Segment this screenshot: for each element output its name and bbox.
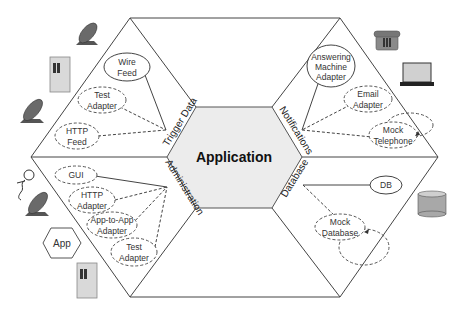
svg-text:Adapter: Adapter [353, 100, 383, 110]
svg-text:Email: Email [357, 89, 378, 99]
svg-text:Feed: Feed [67, 137, 87, 147]
svg-text:Database: Database [322, 228, 359, 238]
svg-text:Mock: Mock [383, 125, 404, 135]
svg-text:Test: Test [94, 90, 110, 100]
svg-text:App-to-App: App-to-App [91, 215, 134, 225]
adapter-http-admin[interactable]: HTTP Adapter [69, 187, 115, 213]
connector-gui [95, 176, 167, 187]
svg-text:DB: DB [380, 180, 392, 190]
adapter-wire-feed[interactable]: Wire Feed [104, 53, 150, 81]
svg-text:Telephone: Telephone [373, 136, 413, 146]
database-icon [418, 191, 446, 217]
adapter-app-to-app[interactable]: App-to-App Adapter [87, 212, 137, 238]
connector-test-adapter-trigger [120, 107, 166, 130]
adapter-email[interactable]: Email Adapter [344, 86, 392, 112]
connector-mock-telephone [302, 130, 372, 137]
adapter-http-feed[interactable]: HTTP Feed [55, 123, 99, 149]
svg-text:Answering: Answering [311, 52, 351, 62]
svg-text:Machine: Machine [315, 62, 347, 72]
satellite-dish-icon [20, 96, 46, 124]
app-actor[interactable]: App [43, 228, 81, 258]
adapter-test-admin[interactable]: Test Adapter [111, 238, 157, 266]
svg-text:HTTP: HTTP [66, 126, 89, 136]
adapter-mock-telephone[interactable]: Mock Telephone [369, 122, 417, 148]
adapter-gui[interactable]: GUI [55, 166, 97, 184]
svg-text:Adapter: Adapter [77, 201, 107, 211]
application-label: Application [196, 149, 272, 165]
server-icon [50, 57, 70, 92]
hexagonal-architecture-diagram: Application Trigger Data Notifications D… [0, 0, 464, 312]
app-actor-label: App [53, 238, 71, 249]
svg-text:Adapter: Adapter [87, 101, 117, 111]
svg-text:Adapter: Adapter [97, 226, 127, 236]
svg-text:Adapter: Adapter [119, 253, 149, 263]
satellite-dish-icon [76, 20, 101, 46]
connector-mock-database [303, 185, 335, 216]
adapter-db[interactable]: DB [370, 176, 402, 194]
adapter-answering-machine[interactable]: Answering Machine Adapter [307, 45, 355, 87]
connector-test-adapter-admin [155, 187, 167, 247]
svg-text:Wire: Wire [118, 57, 136, 67]
adapter-test-trigger[interactable]: Test Adapter [78, 87, 126, 113]
svg-text:GUI: GUI [68, 170, 83, 180]
connector-http-adapter [115, 187, 167, 200]
connector-http-feed [98, 130, 166, 136]
user-icon [17, 170, 34, 200]
adapter-mock-database[interactable]: Mock Database [315, 214, 365, 240]
server-icon [77, 263, 97, 298]
telephone-icon [374, 31, 400, 50]
connector-app-to-app [132, 187, 167, 224]
svg-text:Feed: Feed [117, 68, 137, 78]
connector-wire-feed [145, 75, 166, 130]
laptop-icon [400, 63, 434, 86]
svg-text:Adapter: Adapter [316, 72, 346, 82]
svg-text:HTTP: HTTP [81, 190, 104, 200]
svg-text:Mock: Mock [330, 217, 351, 227]
svg-text:Test: Test [126, 242, 142, 252]
satellite-dish-icon [25, 189, 51, 217]
